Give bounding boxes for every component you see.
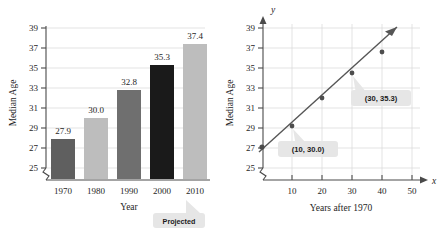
- bar-ytick-29: 29: [29, 123, 39, 133]
- data-point-40-37-4: [380, 50, 385, 55]
- projected-callout-label: Projected: [163, 217, 196, 226]
- bar-chart-svg: 27.9 30.0 32.8 35.3 37.4 39 37: [0, 0, 215, 240]
- scatter-ytick-35: 35: [246, 63, 256, 73]
- point-callout-10-30: (10, 30.0): [278, 129, 338, 157]
- bar-2000: [150, 65, 174, 179]
- scatter-ytick-29: 29: [246, 123, 256, 133]
- bar-ytick-25: 25: [29, 163, 39, 173]
- bar-value-1990: 32.8: [121, 77, 137, 87]
- data-point-10-30-0: [290, 124, 295, 129]
- data-point-30-35-3: [350, 71, 355, 76]
- bar-ytick-33: 33: [29, 83, 39, 93]
- scatter-xtick-10: 10: [288, 186, 298, 196]
- bar-ytick-35: 35: [29, 63, 39, 73]
- y-axis-arrowhead: [260, 16, 267, 24]
- scatter-ytick-33: 33: [246, 83, 256, 93]
- callout-label-10-30: (10, 30.0): [292, 145, 325, 154]
- bar-ytick-39: 39: [29, 23, 39, 33]
- projected-callout: Projected: [153, 200, 205, 228]
- bar-value-1980: 30.0: [88, 105, 104, 115]
- y-axis-variable-label: y: [270, 5, 276, 15]
- bar-ytick-27: 27: [29, 143, 39, 153]
- data-point-20-32-8: [320, 96, 325, 101]
- bar-chart-y-axis: 39 37 35 33 31 29 27 25: [29, 23, 49, 180]
- bar-2010: [183, 44, 207, 179]
- bar-1980: [84, 118, 108, 179]
- scatter-x-axis: 10 20 30 40 50 x: [263, 175, 437, 196]
- scatter-ytick-39: 39: [246, 23, 256, 33]
- bar-chart-x-axis-title: Year: [120, 202, 138, 212]
- scatter-xtick-50: 50: [408, 186, 418, 196]
- scatter-chart-panel: (30, 35.3) (10, 30.0): [215, 0, 441, 240]
- x-axis-variable-label: x: [431, 176, 437, 186]
- scatter-ytick-25: 25: [246, 163, 256, 173]
- bar-1990: [117, 90, 141, 179]
- bar-value-2000: 35.3: [154, 52, 170, 62]
- scatter-ytick-37: 37: [246, 43, 256, 53]
- bar-value-1970: 27.9: [55, 126, 71, 136]
- figure-container: 27.9 30.0 32.8 35.3 37.4 39 37: [0, 0, 441, 240]
- bar-xtick-1990: 1990: [120, 186, 139, 196]
- scatter-ytick-31: 31: [246, 103, 255, 113]
- scatter-xtick-30: 30: [348, 186, 358, 196]
- scatter-xtick-20: 20: [318, 186, 328, 196]
- bar-xtick-1970: 1970: [54, 186, 73, 196]
- bar-xtick-2010: 2010: [186, 186, 205, 196]
- data-point-0-27-9: [259, 144, 264, 149]
- bar-1970: [51, 139, 75, 179]
- scatter-y-axis: 39 37 35 33 31 29 27 25 y: [246, 5, 276, 180]
- bar-series: [51, 44, 207, 179]
- bar-value-2010: 37.4: [187, 31, 203, 41]
- bar-ytick-31: 31: [29, 103, 38, 113]
- bar-chart-y-axis-title: Median Age: [8, 80, 18, 127]
- x-axis-arrowhead: [420, 177, 428, 184]
- bar-ytick-37: 37: [29, 43, 39, 53]
- callout-label-30-353: (30, 35.3): [365, 94, 398, 103]
- trend-line-series: [259, 27, 397, 152]
- bar-xtick-1980: 1980: [87, 186, 106, 196]
- scatter-ytick-27: 27: [246, 143, 256, 153]
- scatter-xtick-40: 40: [378, 186, 388, 196]
- bar-xtick-2000: 2000: [153, 186, 172, 196]
- scatter-y-axis-title: Median Age: [225, 80, 235, 127]
- point-callout-30-353: (30, 35.3): [351, 76, 411, 106]
- bar-chart-panel: 27.9 30.0 32.8 35.3 37.4 39 37: [0, 0, 215, 240]
- scatter-x-axis-title: Years after 1970: [310, 203, 373, 213]
- bar-chart-x-axis: 1970 1980 1990 2000 2010: [46, 180, 210, 196]
- scatter-chart-svg: (30, 35.3) (10, 30.0): [215, 0, 441, 240]
